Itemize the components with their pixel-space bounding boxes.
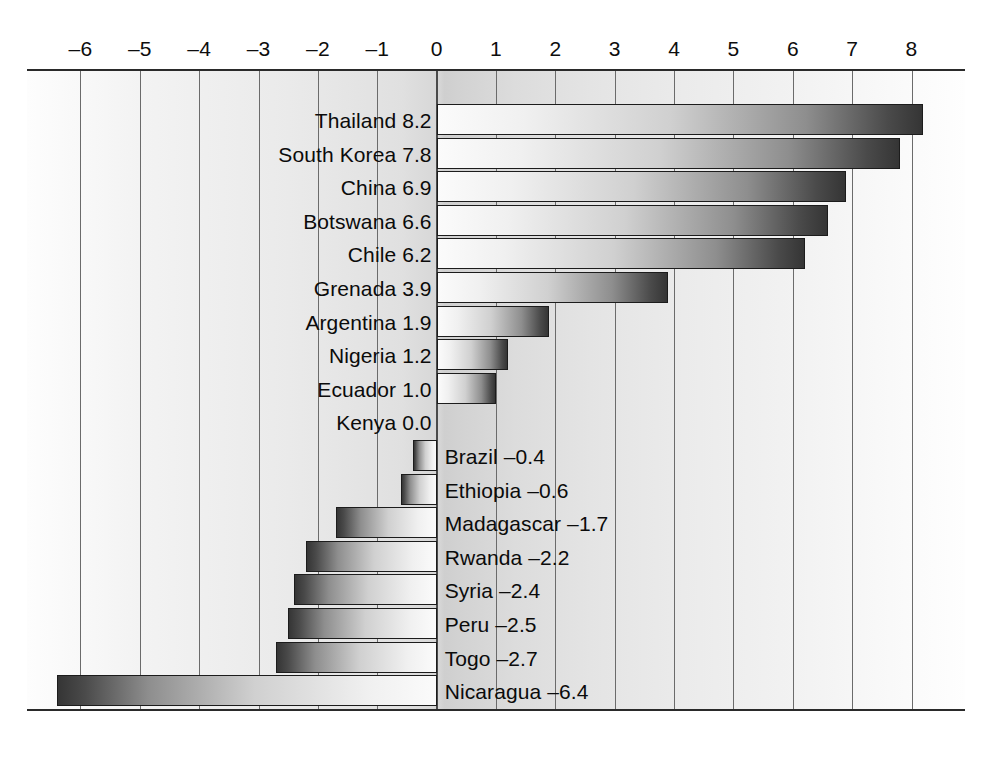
x-tick-label: 2: [549, 36, 561, 62]
x-tick-label: 7: [846, 36, 858, 62]
bar-label: Togo –2.7: [445, 648, 538, 669]
bar[interactable]: [437, 272, 669, 303]
bar-label: South Korea 7.8: [278, 144, 431, 165]
bar[interactable]: [437, 205, 829, 236]
bar[interactable]: [294, 574, 436, 605]
bar-label: Argentina 1.9: [305, 312, 431, 333]
bar-row: [27, 171, 965, 202]
bar[interactable]: [306, 541, 437, 572]
plot-area: Thailand 8.2South Korea 7.8China 6.9Bots…: [27, 71, 965, 709]
x-axis-tick-labels: –6–5–4–3–2–1012345678: [0, 36, 990, 66]
x-tick-label: –4: [187, 36, 211, 62]
bar[interactable]: [437, 238, 805, 269]
x-tick-label: –5: [128, 36, 152, 62]
x-tick-label: 3: [609, 36, 621, 62]
bar[interactable]: [288, 608, 436, 639]
bar-row: [27, 373, 965, 404]
bar[interactable]: [437, 138, 900, 169]
bar[interactable]: [401, 474, 437, 505]
x-tick-label: 6: [787, 36, 799, 62]
bar-label: China 6.9: [341, 177, 432, 198]
x-tick-label: –1: [365, 36, 389, 62]
bar[interactable]: [336, 507, 437, 538]
bar-label: Botswana 6.6: [303, 211, 431, 232]
bar-label: Chile 6.2: [348, 244, 432, 265]
bar[interactable]: [413, 440, 437, 471]
x-tick-label: –3: [247, 36, 271, 62]
bar-label: Grenada 3.9: [314, 278, 432, 299]
axis-rule-bottom: [27, 709, 965, 711]
bar[interactable]: [437, 171, 847, 202]
bar-label: Ecuador 1.0: [317, 379, 431, 400]
bar-row: [27, 104, 965, 135]
bar[interactable]: [57, 675, 437, 706]
bar-row: [27, 339, 965, 370]
bar[interactable]: [437, 104, 924, 135]
x-tick-label: 5: [728, 36, 740, 62]
bar-label: Kenya 0.0: [336, 412, 431, 433]
bar-label: Nigeria 1.2: [329, 345, 432, 366]
bar-label: Syria –2.4: [445, 580, 541, 601]
bar-label: Madagascar –1.7: [445, 513, 609, 534]
bar[interactable]: [276, 642, 436, 673]
x-tick-label: 4: [668, 36, 680, 62]
bar-chart: –6–5–4–3–2–1012345678 Thailand 8.2South …: [0, 0, 990, 758]
bar-row: [27, 406, 965, 437]
bar-label: Thailand 8.2: [315, 110, 432, 131]
x-tick-label: –2: [306, 36, 330, 62]
bar-label: Nicaragua –6.4: [445, 681, 589, 702]
bar-row: [27, 205, 965, 236]
bar[interactable]: [437, 373, 496, 404]
bar-label: Peru –2.5: [445, 614, 537, 635]
bar-row: [27, 238, 965, 269]
bar-label: Rwanda –2.2: [445, 547, 570, 568]
bar-label: Brazil –0.4: [445, 446, 545, 467]
bar-row: [27, 272, 965, 303]
x-tick-label: 8: [906, 36, 918, 62]
x-tick-label: 0: [431, 36, 443, 62]
x-tick-label: 1: [490, 36, 502, 62]
bar[interactable]: [437, 306, 550, 337]
bar[interactable]: [437, 339, 508, 370]
bar-row: [27, 306, 965, 337]
bar-row: [27, 138, 965, 169]
x-tick-label: –6: [69, 36, 93, 62]
bar-label: Ethiopia –0.6: [445, 480, 569, 501]
